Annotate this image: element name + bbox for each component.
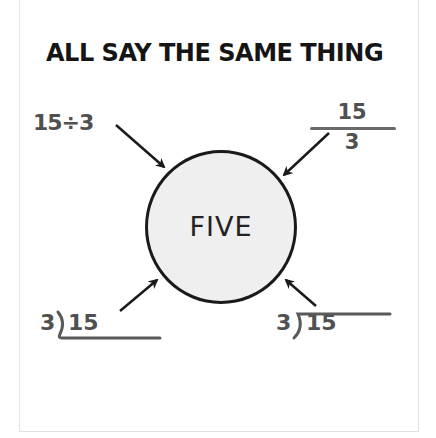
arrow-bottom-left (120, 280, 157, 311)
arrow-bottom-right (286, 280, 316, 306)
arrow-top-left (116, 125, 164, 167)
long-division-bracket-right (294, 314, 390, 338)
long-division-bracket-left (58, 312, 160, 338)
arrow-top-right (284, 133, 329, 175)
arrows-and-brackets (0, 0, 436, 438)
